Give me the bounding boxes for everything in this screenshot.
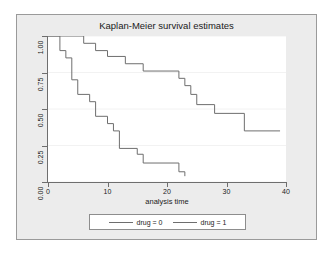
legend-line-icon [173, 222, 197, 223]
x-tick-label: 40 [273, 188, 299, 195]
y-tick-label: 0.50 [37, 108, 44, 134]
y-tick-label: 0.75 [37, 71, 44, 97]
gridlines [48, 36, 286, 182]
survival-curve [48, 36, 185, 176]
legend-label: drug = 1 [201, 219, 227, 226]
survival-curve [48, 36, 280, 131]
x-axis-title: analysis time [48, 197, 286, 206]
x-tick-mark [48, 183, 49, 187]
x-tick-label: 30 [214, 188, 240, 195]
x-tick-mark [167, 183, 168, 187]
x-tick-mark [286, 183, 287, 187]
chart-title: Kaplan-Meier survival estimates [16, 20, 317, 31]
legend-line-icon [109, 222, 133, 223]
y-tick-label: 1.00 [37, 35, 44, 61]
x-tick-label: 10 [95, 188, 121, 195]
x-tick-mark [227, 183, 228, 187]
legend-label: drug = 0 [137, 219, 163, 226]
legend-item[interactable]: drug = 0 [109, 219, 163, 226]
legend: drug = 0 drug = 1 [89, 214, 246, 230]
series-layer [48, 36, 280, 176]
x-tick-mark [108, 183, 109, 187]
chart-root: Kaplan-Meier survival estimates 0.000.25… [0, 0, 333, 254]
survival-curves-svg [48, 36, 286, 182]
plot-area [48, 36, 286, 182]
legend-item[interactable]: drug = 1 [173, 219, 227, 226]
x-tick-label: 20 [154, 188, 180, 195]
y-tick-label: 0.25 [37, 144, 44, 170]
x-tick-label: 0 [35, 188, 61, 195]
y-axis-line [47, 36, 48, 183]
